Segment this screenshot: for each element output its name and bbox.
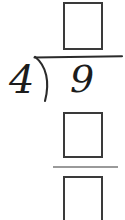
dividend-digit: 9 <box>70 60 94 98</box>
divisor-digit: 4 <box>9 59 34 99</box>
remainder-answer-box[interactable] <box>63 176 103 220</box>
product-answer-box[interactable] <box>63 112 103 158</box>
subtraction-rule <box>53 166 118 168</box>
long-division-worksheet: 4 9 <box>0 0 125 220</box>
quotient-answer-box[interactable] <box>63 2 103 50</box>
